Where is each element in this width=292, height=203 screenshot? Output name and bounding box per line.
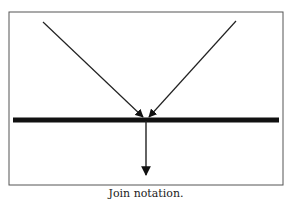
figure-caption: Join notation. bbox=[0, 187, 292, 200]
join-diagram bbox=[0, 0, 292, 203]
